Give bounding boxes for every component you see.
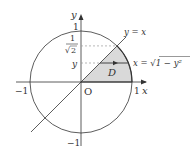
integration-region-diagram: y x O 1 −1 −1 1 1 √ 2 y y = x x = √1 − y… [0,0,196,153]
y-var-label: y [71,59,78,69]
frac-denominator: 2 [71,46,76,55]
line-label: y = x [123,27,146,37]
y-axis-label: y [70,9,77,20]
tick-y-pos: 1 [73,22,79,32]
region-label: D [107,67,116,78]
arc-label: x = √1 − y² [133,58,182,68]
tick-x-neg: −1 [15,86,28,96]
region-d [81,46,132,82]
line-y-equals-x [31,37,126,132]
x-axis-label: x [142,85,148,96]
y-axis-arrow [79,14,84,20]
tick-y-neg: −1 [67,138,80,148]
origin-label: O [84,86,92,97]
frac-numerator: 1 [70,34,75,43]
tick-x-pos: 1 [134,86,140,96]
x-axis-arrow [141,80,147,85]
